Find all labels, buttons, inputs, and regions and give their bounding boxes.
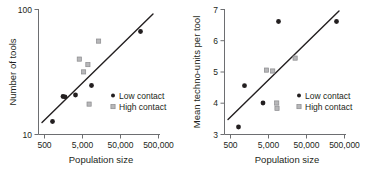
data-point-low-contact bbox=[242, 83, 247, 88]
legend-marker-high-contact bbox=[297, 105, 301, 109]
panel-number-of-tools: 100 10 500 5,000 50,000 500,000 Populati… bbox=[0, 0, 184, 179]
y-ticklabel-3: 3 bbox=[213, 130, 218, 140]
x-ticklabel-5000: 5,000 bbox=[72, 140, 94, 150]
x-ticklabel-500000: 500,000 bbox=[143, 140, 174, 150]
figure-two-panel-scatter: 100 10 500 5,000 50,000 500,000 Populati… bbox=[0, 0, 368, 179]
legend-label-low-contact: Low contact bbox=[119, 91, 165, 101]
y-ticklabel-7: 7 bbox=[213, 5, 218, 15]
data-point-high-contact bbox=[77, 57, 81, 61]
data-point-low-contact bbox=[73, 93, 78, 98]
legend-marker-high-contact bbox=[111, 105, 115, 109]
axis-frame-left bbox=[39, 9, 161, 135]
x-ticklabel-500: 500 bbox=[223, 140, 237, 150]
panel-mean-techno-units: 7 6 5 4 3 500 5,000 50,000 500,000 Popul… bbox=[184, 0, 368, 179]
legend-label-high-contact: High contact bbox=[305, 102, 353, 112]
legend-marker-low-contact bbox=[111, 94, 115, 98]
y-ticklabel-5: 5 bbox=[213, 67, 218, 77]
data-point-high-contact bbox=[82, 70, 86, 74]
data-point-high-contact bbox=[271, 69, 275, 73]
x-ticklabel-50000: 50,000 bbox=[108, 140, 134, 150]
data-point-high-contact bbox=[275, 101, 279, 105]
axis-frame-right bbox=[225, 9, 347, 135]
legend: Low contact High contact bbox=[111, 91, 167, 112]
data-point-low-contact bbox=[334, 19, 339, 24]
data-point-low-contact bbox=[63, 94, 68, 99]
y-ticklabel-100: 100 bbox=[18, 5, 32, 15]
y-ticklabel-4: 4 bbox=[213, 98, 218, 108]
x-ticklabel-50000: 50,000 bbox=[294, 140, 320, 150]
data-point-high-contact bbox=[87, 102, 91, 106]
data-point-high-contact bbox=[97, 39, 101, 43]
data-point-low-contact bbox=[261, 101, 266, 106]
data-point-high-contact bbox=[86, 63, 90, 67]
y-axis-title: Number of tools bbox=[7, 38, 18, 105]
data-point-low-contact bbox=[89, 83, 94, 88]
data-point-high-contact bbox=[275, 106, 279, 110]
x-axis-title: Population size bbox=[255, 154, 319, 165]
y-ticklabel-10: 10 bbox=[23, 130, 33, 140]
data-point-low-contact bbox=[236, 125, 241, 130]
data-point-high-contact bbox=[293, 56, 297, 60]
x-ticklabel-500: 500 bbox=[37, 140, 51, 150]
x-ticklabel-5000: 5,000 bbox=[258, 140, 280, 150]
y-axis-title: Mean techno-units per tool bbox=[191, 16, 202, 128]
data-point-low-contact bbox=[50, 119, 55, 124]
legend-marker-low-contact bbox=[297, 94, 301, 98]
y-ticklabel-6: 6 bbox=[213, 36, 218, 46]
data-point-low-contact bbox=[138, 29, 143, 34]
x-ticklabel-500000: 500,000 bbox=[329, 140, 360, 150]
legend: Low contact High contact bbox=[297, 91, 353, 112]
legend-label-low-contact: Low contact bbox=[305, 91, 351, 101]
x-axis-title: Population size bbox=[69, 154, 133, 165]
legend-label-high-contact: High contact bbox=[119, 102, 167, 112]
data-point-low-contact bbox=[276, 19, 281, 24]
data-point-high-contact bbox=[264, 68, 268, 72]
